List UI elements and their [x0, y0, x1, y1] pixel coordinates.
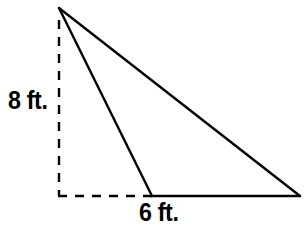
geometry-diagram: 8 ft. 6 ft.: [0, 0, 307, 231]
height-dimension-label: 8 ft.: [8, 88, 47, 113]
triangle-figure: [0, 0, 307, 231]
triangle-left-side-line: [59, 8, 152, 196]
base-dimension-label: 6 ft.: [139, 200, 178, 225]
triangle-hypotenuse-line: [59, 8, 300, 196]
